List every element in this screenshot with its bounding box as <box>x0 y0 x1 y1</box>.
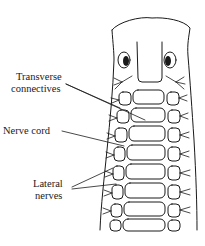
label-lateral-line1: Lateral <box>33 178 63 189</box>
label-transverse-line2: connectives <box>11 83 61 94</box>
label-lateral-line2: nerves <box>35 190 62 201</box>
left-eye-icon <box>118 52 130 68</box>
label-transverse-line1: Transverse <box>16 71 62 82</box>
right-side-segments <box>167 92 180 231</box>
head-ganglion <box>137 42 162 82</box>
left-side-segments <box>110 92 131 231</box>
nervous-system-diagram: Transverse connectives Nerve cord Latera… <box>0 0 205 246</box>
nerve-cord-segments <box>123 90 165 231</box>
right-eye-icon <box>164 52 176 68</box>
lateral-nerves-right <box>166 76 190 213</box>
label-nerve-cord: Nerve cord <box>3 125 51 136</box>
